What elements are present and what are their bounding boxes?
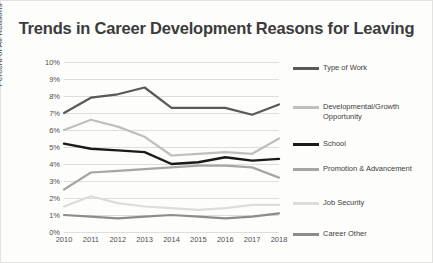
y-tick-label: 6% <box>49 126 60 135</box>
y-tick-label: 10% <box>45 58 60 67</box>
legend-label: Type of Work <box>323 63 367 73</box>
legend-item[interactable]: Job Security <box>293 198 364 208</box>
series-line <box>64 213 279 218</box>
plot-area <box>64 62 279 232</box>
y-tick-label: 3% <box>49 177 60 186</box>
x-tick-label: 2014 <box>163 235 180 244</box>
legend-label: Career Other <box>323 229 367 239</box>
legend-item[interactable]: Developmental/Growth Opportunity <box>293 102 423 121</box>
legend-item[interactable]: Promotion & Advancement <box>293 164 412 174</box>
legend-color-swatch <box>293 168 319 171</box>
y-tick-label: 9% <box>49 75 60 84</box>
y-tick-label: 4% <box>49 160 60 169</box>
x-tick-label: 2010 <box>56 235 73 244</box>
chart-title: Trends in Career Development Reasons for… <box>1 19 432 38</box>
y-tick-label: 1% <box>49 211 60 220</box>
chart-card: Trends in Career Development Reasons for… <box>0 0 433 263</box>
x-tick-label: 2015 <box>190 235 207 244</box>
legend-item[interactable]: Type of Work <box>293 63 367 73</box>
y-axis-title: Percent of All Reasons <box>0 0 4 105</box>
legend-color-swatch <box>293 143 319 146</box>
x-axis-tick-labels: 201020112012201320142015201620172018 <box>64 235 279 249</box>
legend-item[interactable]: Career Other <box>293 229 367 239</box>
series-line <box>64 196 279 210</box>
y-axis-tick-labels: 0%1%2%3%4%5%6%7%8%9%10% <box>27 62 60 232</box>
legend-label: Developmental/Growth Opportunity <box>323 102 423 121</box>
legend-item[interactable]: School <box>293 139 346 149</box>
series-lines <box>64 62 279 232</box>
x-tick-label: 2013 <box>136 235 153 244</box>
y-tick-label: 2% <box>49 194 60 203</box>
legend-color-swatch <box>293 233 319 236</box>
y-tick-label: 5% <box>49 143 60 152</box>
x-tick-label: 2012 <box>109 235 126 244</box>
legend-label: Job Security <box>323 198 364 208</box>
series-line <box>64 166 279 190</box>
legend-label: Promotion & Advancement <box>323 164 412 174</box>
legend-color-swatch <box>293 202 319 205</box>
legend-label: School <box>323 139 346 149</box>
y-tick-label: 8% <box>49 92 60 101</box>
x-tick-label: 2017 <box>244 235 261 244</box>
legend-color-swatch <box>293 67 319 70</box>
legend-color-swatch <box>293 106 319 109</box>
series-line <box>64 88 279 115</box>
x-tick-label: 2016 <box>217 235 234 244</box>
x-tick-label: 2011 <box>83 235 99 244</box>
x-tick-label: 2018 <box>271 235 288 244</box>
gridline <box>64 232 279 233</box>
y-tick-label: 7% <box>49 109 60 118</box>
